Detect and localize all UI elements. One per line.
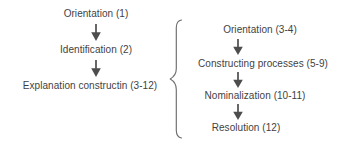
- down-arrow-icon: [90, 60, 103, 78]
- node-nominalization-10-11: Nominalization (10-11): [205, 90, 306, 102]
- flowchart-diagram: Orientation (1) Identification (2) Expla…: [0, 0, 351, 144]
- node-orientation-1: Orientation (1): [64, 8, 129, 20]
- down-arrow-icon: [90, 24, 103, 42]
- curly-brace-icon: [168, 18, 184, 140]
- node-identification-2: Identification (2): [60, 44, 132, 56]
- down-arrow-icon: [232, 72, 245, 89]
- down-arrow-icon: [232, 39, 245, 56]
- node-explanation-construction-3-12: Explanation constructin (3-12): [23, 80, 157, 92]
- down-arrow-icon: [232, 104, 245, 121]
- node-orientation-3-4: Orientation (3-4): [223, 24, 297, 36]
- node-resolution-12: Resolution (12): [212, 122, 281, 134]
- node-constructing-processes-5-9: Constructing processes (5-9): [198, 58, 328, 70]
